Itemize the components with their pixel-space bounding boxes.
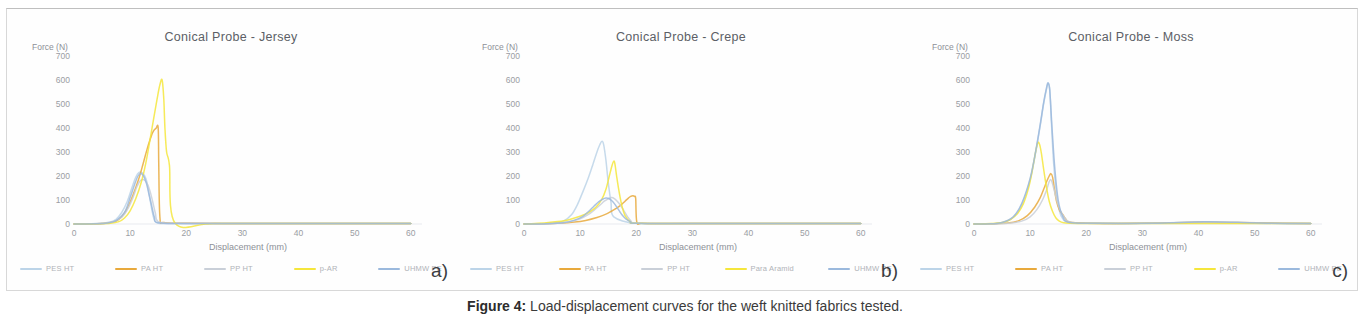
x-tick-label: 30	[1138, 228, 1147, 238]
plot-area	[74, 56, 422, 224]
y-tick-label: 600	[56, 75, 70, 85]
x-axis-ticks: 0102030405060	[74, 228, 422, 242]
x-axis-title: Displacement (mm)	[524, 242, 872, 252]
x-tick-label: 20	[182, 228, 191, 238]
x-tick-label: 10	[125, 228, 134, 238]
legend-label: p-AR	[320, 264, 338, 273]
y-tick-label: 500	[956, 99, 970, 109]
legend-swatch-icon	[1278, 268, 1300, 270]
x-tick-label: 50	[1250, 228, 1259, 238]
legend-label: PP HT	[230, 264, 253, 273]
legend-swatch-icon	[1104, 268, 1126, 270]
legend-swatch-icon	[559, 268, 581, 270]
y-tick-label: 0	[965, 219, 970, 229]
chart-panel-1: Conical Probe - JerseyForce (N)700600500…	[6, 8, 456, 291]
legend-item[interactable]: PES HT	[920, 264, 974, 273]
y-tick-label: 200	[506, 171, 520, 181]
x-tick-label: 10	[1025, 228, 1034, 238]
figure-caption-label: Figure 4:	[467, 298, 526, 314]
y-tick-label: 400	[56, 123, 70, 133]
chart-panel-2: Conical Probe - CrepeForce (N)7006005004…	[456, 8, 906, 291]
chart-legend: PES HTPA HTPP HTPara AramidUHMW PE	[470, 264, 892, 273]
legend-item[interactable]: PP HT	[1104, 264, 1153, 273]
x-tick-label: 50	[800, 228, 809, 238]
x-tick-label: 30	[688, 228, 697, 238]
legend-item[interactable]: p-AR	[294, 264, 338, 273]
x-tick-label: 20	[1082, 228, 1091, 238]
x-tick-label: 40	[294, 228, 303, 238]
legend-swatch-icon	[204, 268, 226, 270]
x-tick-label: 60	[856, 228, 865, 238]
y-tick-label: 0	[65, 219, 70, 229]
legend-label: PES HT	[946, 264, 974, 273]
legend-item[interactable]: PES HT	[20, 264, 74, 273]
y-tick-label: 100	[56, 195, 70, 205]
plot-svg	[74, 56, 422, 224]
plot-area	[974, 56, 1322, 224]
legend-swatch-icon	[20, 268, 42, 270]
series-line	[974, 84, 1311, 224]
legend-swatch-icon	[470, 268, 492, 270]
y-tick-label: 100	[956, 195, 970, 205]
series-line	[74, 174, 411, 224]
legend-swatch-icon	[115, 268, 137, 270]
legend-label: p-AR	[1220, 264, 1238, 273]
y-tick-label: 700	[506, 51, 520, 61]
legend-swatch-icon	[378, 268, 400, 270]
y-tick-label: 500	[56, 99, 70, 109]
y-tick-label: 700	[56, 51, 70, 61]
legend-swatch-icon	[828, 268, 850, 270]
legend-item[interactable]: PP HT	[641, 264, 690, 273]
legend-label: PA HT	[1041, 264, 1063, 273]
chart-title: Conical Probe - Jersey	[6, 30, 456, 44]
x-tick-label: 10	[575, 228, 584, 238]
y-tick-label: 200	[56, 171, 70, 181]
legend-label: PA HT	[585, 264, 607, 273]
x-tick-label: 50	[350, 228, 359, 238]
legend-swatch-icon	[920, 268, 942, 270]
plot-svg	[974, 56, 1322, 224]
legend-item[interactable]: Para Aramid	[725, 264, 794, 273]
legend-item[interactable]: p-AR	[1194, 264, 1238, 273]
panel-letter: a)	[431, 260, 448, 282]
x-axis-ticks: 0102030405060	[524, 228, 872, 242]
series-line	[974, 142, 1311, 224]
x-tick-label: 0	[972, 228, 977, 238]
series-line	[74, 172, 411, 224]
legend-swatch-icon	[725, 268, 747, 270]
legend-item[interactable]: PA HT	[1015, 264, 1063, 273]
legend-swatch-icon	[294, 268, 316, 270]
chart-title: Conical Probe - Moss	[906, 30, 1356, 44]
charts-row: Conical Probe - JerseyForce (N)700600500…	[6, 8, 1358, 291]
series-line	[74, 125, 411, 224]
legend-label: PES HT	[496, 264, 524, 273]
x-tick-label: 0	[522, 228, 527, 238]
x-axis-title: Displacement (mm)	[74, 242, 422, 252]
legend-label: PP HT	[667, 264, 690, 273]
y-tick-label: 300	[56, 147, 70, 157]
legend-item[interactable]: PES HT	[470, 264, 524, 273]
y-tick-label: 700	[956, 51, 970, 61]
legend-label: PP HT	[1130, 264, 1153, 273]
y-tick-label: 600	[956, 75, 970, 85]
series-line	[524, 141, 861, 224]
series-line	[524, 161, 861, 224]
y-tick-label: 500	[506, 99, 520, 109]
x-tick-label: 20	[632, 228, 641, 238]
legend-item[interactable]: PP HT	[204, 264, 253, 273]
x-tick-label: 60	[406, 228, 415, 238]
figure-caption-text: Load-displacement curves for the weft kn…	[526, 298, 903, 314]
figure-caption: Figure 4: Load-displacement curves for t…	[0, 298, 1370, 314]
y-tick-label: 0	[515, 219, 520, 229]
chart-legend: PES HTPA HTPP HTp-ARUHMW PE	[20, 264, 442, 273]
legend-label: PA HT	[141, 264, 163, 273]
plot-area	[524, 56, 872, 224]
panel-letter: c)	[1332, 260, 1348, 282]
chart-legend: PES HTPA HTPP HTp-ARUHMW PE	[920, 264, 1342, 273]
legend-item[interactable]: PA HT	[559, 264, 607, 273]
y-tick-label: 300	[506, 147, 520, 157]
y-tick-label: 300	[956, 147, 970, 157]
x-tick-label: 30	[238, 228, 247, 238]
y-tick-label: 600	[506, 75, 520, 85]
legend-item[interactable]: PA HT	[115, 264, 163, 273]
